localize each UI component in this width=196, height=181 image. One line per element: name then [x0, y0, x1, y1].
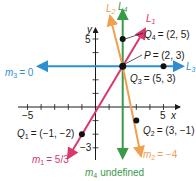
- label-P: P= (2, 3): [144, 50, 185, 61]
- label-Q4: Q4= (2, 5): [144, 29, 190, 41]
- line-L1: [68, 29, 145, 158]
- point-Q2: [133, 118, 139, 124]
- x-axis-label: x: [170, 110, 177, 121]
- label-Q2: Q2= (3, −1): [143, 125, 195, 137]
- slope-label-m4: m4undefined: [85, 167, 144, 179]
- y-tick-label-neg3: −3: [80, 142, 92, 153]
- slope-label-m3: m3= 0: [5, 67, 34, 79]
- axes: y 5 −3 −5 5 x: [18, 24, 180, 160]
- y-tick-label-5: 5: [85, 34, 91, 45]
- label-L4: L4: [118, 1, 128, 13]
- label-Q1: Q1= (−1, −2): [17, 128, 74, 140]
- slope-label-m1: m1= 5/3: [32, 154, 69, 166]
- label-L1: L1: [146, 13, 156, 25]
- x-tick-label-5: 5: [160, 110, 166, 121]
- label-L3: L3: [186, 61, 196, 73]
- point-Q3: [161, 63, 167, 69]
- point-Q1: [79, 131, 85, 137]
- label-Q3: Q3= (5, 3): [130, 73, 176, 85]
- coordinate-graph: y 5 −3 −5 5 x L2 L4 L1 L3: [0, 0, 196, 181]
- label-L2: L2: [106, 3, 116, 15]
- x-tick-label-neg5: −5: [22, 110, 34, 121]
- point-Q4: [120, 36, 126, 42]
- line-L2: [110, 16, 141, 156]
- slope-label-m2: m2= −4: [143, 149, 178, 161]
